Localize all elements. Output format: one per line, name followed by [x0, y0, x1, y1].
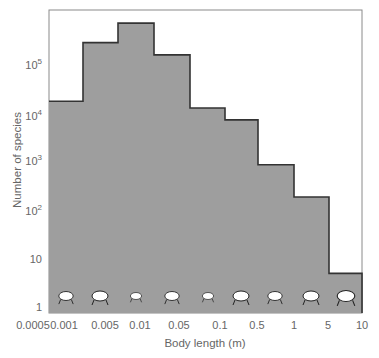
x-tick-label: 0.005: [91, 319, 119, 331]
x-axis-label: Body length (m): [164, 337, 245, 349]
y-axis-label: Number of species: [11, 112, 23, 208]
x-tick-label: 10: [356, 319, 368, 331]
x-tick-label: 0.05: [168, 319, 189, 331]
x-tick-label: 0.001: [50, 319, 78, 331]
x-tick-label: 0.5: [249, 319, 264, 331]
y-tick-label: 10: [12, 253, 42, 265]
y-tick-label: 105: [12, 57, 42, 71]
x-tick-label: 0.01: [129, 319, 150, 331]
histogram-plot: [0, 0, 379, 358]
x-tick-label: 0.0005: [16, 319, 50, 331]
x-tick-label: 5: [325, 319, 331, 331]
x-tick-label: 0.1: [212, 319, 227, 331]
y-tick-label: 1: [12, 301, 42, 313]
x-tick-label: 1: [291, 319, 297, 331]
